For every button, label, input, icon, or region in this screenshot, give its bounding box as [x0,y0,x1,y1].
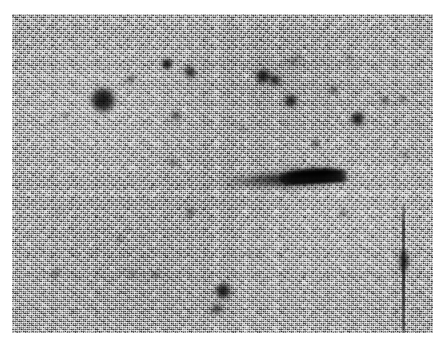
star-point-source [400,96,407,103]
star-point-source [127,75,135,83]
star-point-source [215,283,231,299]
star-point-source [211,303,222,314]
film-grain-layer-clumps [12,14,433,333]
star-point-source [403,152,409,158]
star-point-source [312,139,319,146]
elongated-dark-object [218,163,347,196]
film-grain-layer-diagonal [12,14,433,333]
object-core-upper-edge [288,167,340,178]
star-point-source [184,66,196,78]
star-point-source [284,94,297,107]
star-point-source [240,125,246,131]
plate-scratch [402,203,405,333]
star-point-source [57,207,62,212]
scratch-line [402,203,405,333]
star-point-source [130,270,136,276]
star-point-source [346,55,352,61]
star-point-source [269,74,281,86]
star-point-source [247,252,252,257]
object-tail [219,174,296,187]
star-point-source [351,112,365,126]
star-point-source [295,54,301,60]
plate-vignette [12,14,433,333]
object-halo [218,161,347,198]
star-point-source [340,210,347,217]
astronomical-plate-figure [0,0,445,348]
star-point-source [289,58,296,65]
star-point-source [117,237,123,243]
star-point-source [186,208,194,216]
star-point-source [152,271,159,278]
star-point-source [256,69,271,84]
scratch-knot [398,249,409,273]
film-grain-layer-fine [12,14,433,333]
star-point-source [330,86,338,94]
object-core [280,169,347,185]
star-point-source [171,111,180,120]
star-point-source [53,270,60,277]
star-point-source [91,88,116,113]
star-point-source [381,96,389,104]
star-point-source [161,58,172,69]
emulsion-mottling [12,14,433,333]
star-point-source [169,159,176,166]
star-point-source [63,112,69,118]
sky-field [12,14,433,333]
